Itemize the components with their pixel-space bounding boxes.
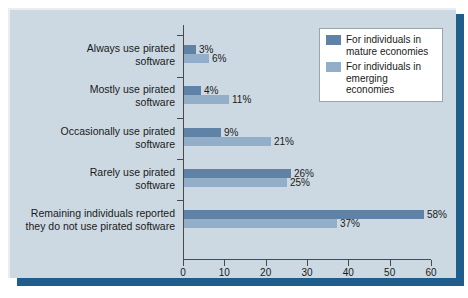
- x-axis-tick: [183, 260, 184, 266]
- category-label-line: Rarely use pirated: [10, 166, 175, 179]
- x-axis-tick-label: 10: [212, 267, 236, 279]
- y-axis-category-label: Occasionally use piratedsoftware: [10, 125, 175, 150]
- x-axis-tick-label: 50: [378, 267, 402, 279]
- x-axis-tick-label: 40: [336, 267, 360, 279]
- legend-label-mature: For individuals in mature economies: [346, 34, 428, 57]
- legend-label-emerging-line1: For individuals in: [346, 61, 421, 72]
- chart-bar: [184, 137, 271, 146]
- legend-item-mature: For individuals in mature economies: [326, 34, 437, 57]
- y-axis-category-tick: [177, 77, 184, 78]
- x-axis-tick: [431, 260, 432, 266]
- chart-bar: [184, 45, 196, 54]
- legend-swatch-emerging-icon: [326, 62, 341, 72]
- y-axis-category-tick: [177, 35, 184, 36]
- bar-value-label: 25%: [290, 178, 310, 188]
- y-axis-category-label: Always use piratedsoftware: [10, 42, 175, 67]
- chart-legend: For individuals in mature economies For …: [319, 28, 443, 102]
- bar-value-label: 58%: [427, 210, 447, 220]
- category-label-line: Always use pirated: [10, 42, 175, 55]
- bar-value-label: 21%: [274, 137, 294, 147]
- category-label-line: software: [10, 138, 175, 151]
- bar-value-label: 11%: [232, 95, 251, 105]
- chart-bar: [184, 54, 209, 63]
- x-axis-tick-label: 0: [171, 267, 195, 279]
- legend-label-mature-line1: For individuals in: [346, 34, 421, 45]
- category-label-line: software: [10, 179, 175, 192]
- x-axis-tick-label: 60: [419, 267, 443, 279]
- x-axis-tick: [224, 260, 225, 266]
- legend-label-emerging-line2: emerging economies: [346, 73, 394, 96]
- y-axis-category-label: Mostly use piratedsoftware: [10, 83, 175, 108]
- x-axis-tick: [390, 260, 391, 266]
- chart-bar: [184, 169, 291, 178]
- y-axis-category-label: Rarely use piratedsoftware: [10, 166, 175, 191]
- chart-bar: [184, 86, 201, 95]
- legend-swatch-mature-icon: [326, 35, 341, 45]
- bar-value-label: 37%: [340, 219, 360, 229]
- category-label-line: Mostly use pirated: [10, 83, 175, 96]
- y-axis-category-tick: [177, 200, 184, 201]
- legend-label-emerging: For individuals in emerging economies: [346, 61, 437, 96]
- y-axis-category-tick: [177, 159, 184, 160]
- y-axis-category-tick: [177, 118, 184, 119]
- chart-bar: [184, 128, 221, 137]
- category-label-line: they do not use pirated software: [10, 220, 175, 233]
- chart-panel: 0102030405060Always use piratedsoftware3…: [8, 8, 456, 278]
- legend-label-mature-line2: mature economies: [346, 46, 428, 57]
- chart-bar: [184, 178, 287, 187]
- chart-bar: [184, 219, 337, 228]
- bar-value-label: 6%: [212, 54, 226, 64]
- x-axis-tick-label: 20: [254, 267, 278, 279]
- chart-figure: 0102030405060Always use piratedsoftware3…: [0, 0, 468, 298]
- x-axis-tick-label: 30: [295, 267, 319, 279]
- category-label-line: Occasionally use pirated: [10, 125, 175, 138]
- x-axis-tick: [307, 260, 308, 266]
- chart-bar: [184, 95, 229, 104]
- x-axis-tick: [266, 260, 267, 266]
- legend-item-emerging: For individuals in emerging economies: [326, 61, 437, 96]
- y-axis-category-label: Remaining individuals reportedthey do no…: [10, 207, 175, 232]
- category-label-line: software: [10, 55, 175, 68]
- chart-bar: [184, 210, 424, 219]
- category-label-line: software: [10, 96, 175, 109]
- category-label-line: Remaining individuals reported: [10, 207, 175, 220]
- x-axis-tick: [348, 260, 349, 266]
